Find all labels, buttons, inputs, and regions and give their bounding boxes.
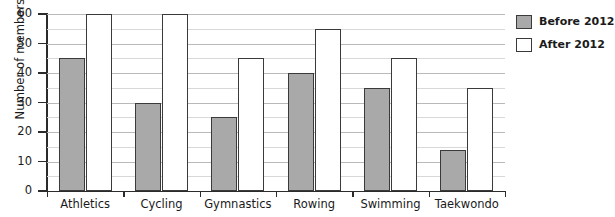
bar-gymnastics-before <box>211 117 237 191</box>
bar-swimming-after <box>391 58 417 191</box>
legend-label-after: After 2012 <box>539 38 605 51</box>
y-axis-tick-label: 60 <box>6 8 32 20</box>
legend-item-before: Before 2012 <box>516 14 595 29</box>
bar-swimming-before <box>364 88 390 191</box>
x-axis-label-gymnastics: Gymnastics <box>200 197 276 211</box>
y-axis-tick <box>38 161 47 162</box>
y-axis-tick-label: 30 <box>6 97 32 109</box>
legend: Before 2012 After 2012 <box>516 14 595 60</box>
x-axis-label-cycling: Cycling <box>123 197 199 211</box>
bar-gymnastics-after <box>238 58 264 191</box>
bar-cycling-before <box>135 103 161 192</box>
legend-item-after: After 2012 <box>516 37 595 52</box>
gridline-major <box>47 44 505 45</box>
y-axis-tick <box>38 13 47 14</box>
bar-athletics-before <box>59 58 85 191</box>
x-axis-label-swimming: Swimming <box>352 197 428 211</box>
bar-athletics-after <box>86 14 112 191</box>
x-axis-label-athletics: Athletics <box>47 197 123 211</box>
gridline-major <box>47 162 505 163</box>
bar-cycling-after <box>162 14 188 191</box>
bar-rowing-before <box>288 73 314 191</box>
y-axis-tick <box>38 72 47 73</box>
gridline-major <box>47 132 505 133</box>
gridline-minor <box>47 58 505 59</box>
y-axis-tick-label: 20 <box>6 126 32 138</box>
gridline-minor <box>47 88 505 89</box>
y-axis-tick-label: 40 <box>6 67 32 79</box>
gridline-minor <box>47 29 505 30</box>
bar-rowing-after <box>315 29 341 191</box>
x-axis-label-taekwondo: Taekwondo <box>429 197 505 211</box>
y-axis-tick <box>38 131 47 132</box>
legend-swatch-after-icon <box>516 38 532 52</box>
gridline-minor <box>47 117 505 118</box>
x-axis-tick <box>505 191 506 197</box>
plot-area <box>47 14 505 191</box>
y-axis-tick-label: 10 <box>6 156 32 168</box>
gridline-major <box>47 103 505 104</box>
y-axis-tick <box>38 190 47 191</box>
x-axis-label-rowing: Rowing <box>276 197 352 211</box>
bar-taekwondo-after <box>467 88 493 191</box>
y-axis-tick-label: 50 <box>6 38 32 50</box>
legend-swatch-before-icon <box>516 15 532 29</box>
y-axis-tick-label: 0 <box>6 185 32 197</box>
y-axis-tick <box>38 102 47 103</box>
bar-taekwondo-before <box>440 150 466 191</box>
gridline-minor <box>47 176 505 177</box>
gridline-major <box>47 14 505 15</box>
y-axis-tick <box>38 43 47 44</box>
legend-label-before: Before 2012 <box>539 15 615 28</box>
gridline-major <box>47 73 505 74</box>
gridline-minor <box>47 147 505 148</box>
